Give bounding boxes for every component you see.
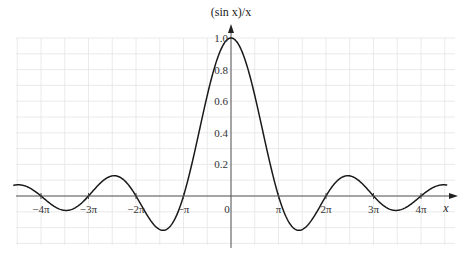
x-tick-label: 2π xyxy=(320,203,332,215)
x-tick-label: −3π xyxy=(80,203,98,215)
y-axis-title: (sin x)/x xyxy=(211,5,251,19)
x-tick-label: 0 xyxy=(224,203,230,215)
sinc-curve xyxy=(13,38,447,230)
x-tick-label: π xyxy=(276,203,282,215)
y-tick-labels: 0.20.40.60.81.0 xyxy=(214,32,228,170)
x-tick-labels: −4π−3π−2π−π0π2π3π4π xyxy=(32,203,427,215)
sinc-chart: −4π−3π−2π−π0π2π3π4π 0.20.40.60.81.0 (sin… xyxy=(0,0,466,258)
x-axis-title: x xyxy=(442,201,449,215)
y-tick-label: 0.4 xyxy=(214,127,228,139)
x-axis-arrow-icon xyxy=(449,193,458,199)
y-tick-label: 1.0 xyxy=(214,32,228,44)
x-tick-label: −4π xyxy=(32,203,50,215)
y-tick-label: 0.8 xyxy=(214,64,228,76)
x-tick-label: 4π xyxy=(415,203,427,215)
y-axis-arrow-icon xyxy=(228,24,234,33)
y-tick-label: 0.6 xyxy=(214,95,228,107)
x-tick-label: −π xyxy=(178,203,190,215)
y-tick-label: 0.2 xyxy=(214,158,228,170)
x-tick-label: −2π xyxy=(127,203,145,215)
x-tick-label: 3π xyxy=(368,203,380,215)
